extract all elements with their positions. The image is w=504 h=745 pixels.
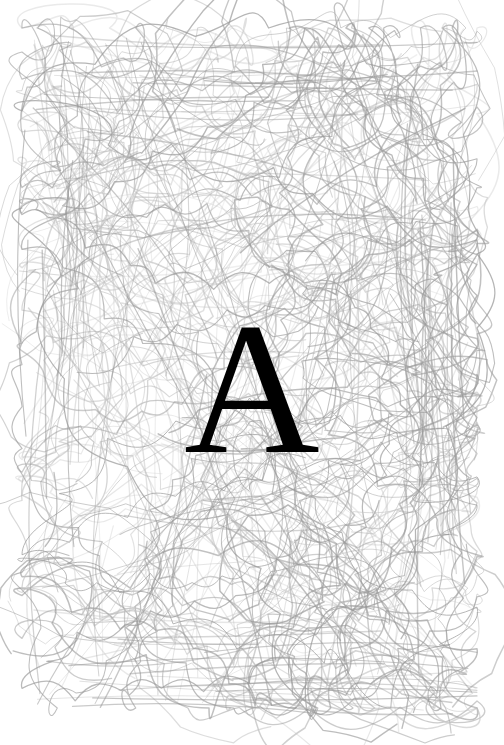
artwork-canvas: A <box>0 0 504 745</box>
scribble-svg <box>0 0 504 745</box>
scribble-layer <box>0 0 504 745</box>
